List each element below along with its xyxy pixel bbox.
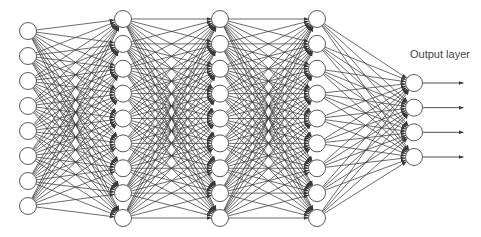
connection-edge [323,114,409,212]
neuron-node [212,11,229,28]
neuron-node [115,210,132,227]
connection-edge [35,24,116,77]
neuron-node [212,210,229,227]
connection-edge [33,26,118,149]
hidden-layer-3 [309,11,326,227]
neuron-node [309,210,326,227]
connection-edge [323,89,407,163]
connection-edge [324,162,407,214]
neuron-node [406,149,423,166]
network-canvas [0,0,481,237]
connection-edge [324,24,407,79]
hidden-layer-2 [212,11,229,227]
neuron-node [20,123,37,140]
neuron-node [115,11,132,28]
neuron-node [20,173,37,190]
hidden-layer-1 [115,11,132,227]
neuron-node [20,73,37,90]
connection-edge [323,138,407,212]
connection-edge [325,84,405,93]
neuron-node [115,185,132,202]
neuron-node [212,85,229,102]
neuron-node [212,135,229,152]
neurons [20,11,423,227]
neuron-node [309,35,326,52]
neuron-node [20,23,37,40]
neuron-node [212,160,229,177]
input-layer [20,23,37,215]
neuron-node [115,85,132,102]
neuron-node [212,35,229,52]
connection-edge [325,70,405,82]
connection-edge [36,207,114,217]
neuron-node [20,198,37,215]
neuron-node [115,135,132,152]
output-layer [406,75,423,166]
neuron-node [212,110,229,127]
neuron-node [115,60,132,77]
neuron-node [20,148,37,165]
neuron-node [212,60,229,77]
connection-edge [34,124,117,200]
neuron-node [406,99,423,116]
neuron-node [20,98,37,115]
neuron-node [20,48,37,65]
neuron-node [309,60,326,77]
neuron-node [309,85,326,102]
connection-edge [325,47,406,80]
neuron-node [309,110,326,127]
connection-edge [323,89,409,186]
output-arrows [423,83,464,157]
neuron-node [406,75,423,92]
connection-edge [322,90,409,211]
neuron-node [115,160,132,177]
neuron-node [115,110,132,127]
neuron-node [309,185,326,202]
neuron-node [115,35,132,52]
connection-edge [324,87,407,138]
neuron-node [406,124,423,141]
connection-edge [35,148,116,201]
neuron-node [309,11,326,28]
neuron-node [309,160,326,177]
connection-edge [36,20,114,30]
output-layer-label: Output layer [410,48,470,60]
neuron-node [309,135,326,152]
connection-edge [36,171,115,202]
connection-edge [32,26,118,173]
neuron-node [212,185,229,202]
